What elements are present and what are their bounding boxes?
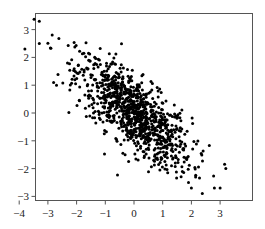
data-point bbox=[169, 114, 172, 117]
data-point bbox=[119, 67, 122, 70]
data-point bbox=[105, 70, 108, 73]
data-point bbox=[135, 89, 138, 92]
data-point bbox=[92, 67, 95, 70]
data-point bbox=[23, 48, 26, 51]
data-point bbox=[108, 115, 111, 118]
data-point bbox=[165, 100, 168, 103]
data-point bbox=[115, 111, 118, 114]
data-point bbox=[120, 70, 123, 73]
data-point bbox=[172, 128, 175, 131]
data-point bbox=[87, 95, 90, 98]
data-point bbox=[121, 109, 124, 112]
data-point bbox=[38, 42, 41, 45]
data-point bbox=[166, 133, 169, 136]
data-point bbox=[103, 107, 106, 110]
data-point bbox=[99, 63, 102, 66]
data-point bbox=[125, 91, 128, 94]
data-point bbox=[120, 123, 123, 126]
data-point bbox=[155, 143, 158, 146]
data-point bbox=[101, 82, 104, 85]
data-point bbox=[147, 102, 150, 105]
data-point bbox=[94, 122, 97, 125]
data-point bbox=[121, 75, 124, 78]
data-point bbox=[165, 124, 168, 127]
data-point bbox=[138, 114, 141, 117]
data-point bbox=[117, 127, 120, 130]
data-point bbox=[110, 78, 113, 81]
data-point bbox=[139, 98, 142, 101]
data-point bbox=[161, 136, 164, 139]
data-point bbox=[194, 175, 197, 178]
data-point bbox=[159, 137, 162, 140]
data-point bbox=[134, 134, 137, 137]
data-point bbox=[185, 158, 188, 161]
data-point bbox=[170, 164, 173, 167]
data-point bbox=[134, 119, 137, 122]
data-point bbox=[165, 151, 168, 154]
x-tick-label: −2 bbox=[71, 207, 83, 219]
scatter-chart: −4−3−2−10123 −3−2−10123 bbox=[0, 0, 265, 229]
data-point bbox=[153, 164, 156, 167]
data-point bbox=[121, 118, 124, 121]
data-point bbox=[68, 69, 71, 72]
data-point bbox=[179, 143, 182, 146]
data-point bbox=[96, 102, 99, 105]
data-point bbox=[175, 125, 178, 128]
data-point bbox=[103, 94, 106, 97]
data-point bbox=[171, 150, 174, 153]
data-point bbox=[159, 147, 162, 150]
data-point bbox=[90, 89, 93, 92]
data-point bbox=[82, 52, 85, 55]
data-point bbox=[117, 76, 120, 79]
data-point bbox=[163, 116, 166, 119]
data-point bbox=[175, 171, 178, 174]
data-point bbox=[51, 34, 54, 37]
data-point bbox=[113, 119, 116, 122]
data-point bbox=[159, 140, 162, 143]
data-point bbox=[179, 130, 182, 133]
data-point bbox=[88, 114, 91, 117]
data-point bbox=[98, 117, 101, 120]
data-point bbox=[154, 120, 157, 123]
data-point bbox=[137, 158, 140, 161]
data-point bbox=[145, 135, 148, 138]
data-point bbox=[176, 113, 179, 116]
data-point bbox=[153, 160, 156, 163]
data-point bbox=[157, 112, 160, 115]
data-point bbox=[196, 140, 199, 143]
data-point bbox=[82, 74, 85, 77]
data-point bbox=[85, 41, 88, 44]
data-point bbox=[171, 124, 174, 127]
data-point bbox=[183, 156, 186, 159]
data-point bbox=[103, 102, 106, 105]
data-point bbox=[61, 82, 64, 85]
data-point bbox=[157, 90, 160, 93]
data-point bbox=[117, 73, 120, 76]
data-point bbox=[76, 104, 79, 107]
data-point bbox=[115, 71, 118, 74]
data-point bbox=[150, 114, 153, 117]
data-point bbox=[148, 144, 151, 147]
data-point bbox=[174, 165, 177, 168]
data-point bbox=[115, 96, 118, 99]
data-point bbox=[123, 139, 126, 142]
data-point bbox=[104, 88, 107, 91]
data-point bbox=[136, 100, 139, 103]
data-point bbox=[141, 88, 144, 91]
data-points bbox=[23, 18, 227, 195]
data-point bbox=[108, 65, 111, 68]
data-point bbox=[102, 120, 105, 123]
data-point bbox=[118, 110, 121, 113]
data-point bbox=[156, 86, 159, 89]
data-point bbox=[134, 130, 137, 133]
data-point bbox=[92, 106, 95, 109]
data-point bbox=[91, 74, 94, 77]
data-point bbox=[188, 164, 191, 167]
data-point bbox=[67, 111, 70, 114]
data-point bbox=[138, 135, 141, 138]
data-point bbox=[83, 79, 86, 82]
data-point bbox=[200, 154, 203, 157]
data-point bbox=[87, 52, 90, 55]
data-point bbox=[113, 114, 116, 117]
data-point bbox=[67, 44, 70, 47]
